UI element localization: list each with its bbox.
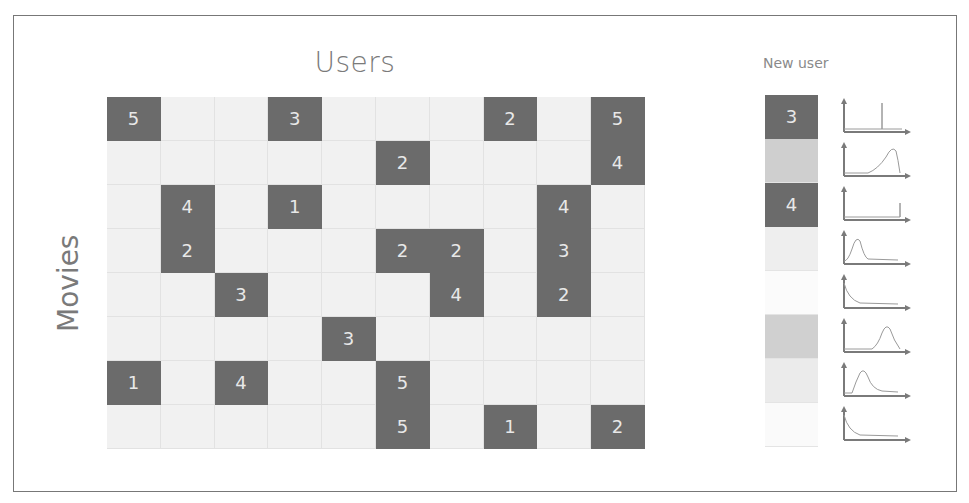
matrix-cell: 4	[215, 361, 269, 405]
matrix-cell	[430, 361, 484, 405]
users-axis-title: Users	[290, 46, 420, 79]
matrix-cell	[376, 185, 430, 229]
matrix-cell	[268, 229, 322, 273]
matrix-cell	[484, 141, 538, 185]
matrix-cell	[215, 185, 269, 229]
new-user-cell	[765, 139, 818, 183]
new-user-cell	[765, 227, 818, 271]
matrix-cell	[376, 317, 430, 361]
matrix-cell	[268, 361, 322, 405]
matrix-cell	[268, 317, 322, 361]
matrix-cell: 1	[107, 361, 161, 405]
matrix-cell: 4	[430, 273, 484, 317]
matrix-cell	[107, 405, 161, 449]
movies-axis-title: Movies	[52, 235, 85, 332]
matrix-cell: 3	[322, 317, 376, 361]
matrix-cell	[215, 405, 269, 449]
matrix-cell: 5	[591, 97, 645, 141]
matrix-cell: 4	[537, 185, 591, 229]
matrix-cell	[107, 141, 161, 185]
distribution-chart-icon	[838, 183, 918, 227]
matrix-cell: 3	[268, 97, 322, 141]
matrix-cell	[268, 273, 322, 317]
distribution-chart-icon	[838, 271, 918, 315]
matrix-cell: 5	[376, 361, 430, 405]
matrix-cell	[591, 273, 645, 317]
distribution-chart-icon	[838, 95, 918, 139]
matrix-cell	[591, 229, 645, 273]
matrix-cell	[484, 361, 538, 405]
matrix-cell	[268, 405, 322, 449]
matrix-cell	[161, 361, 215, 405]
matrix-cell	[591, 185, 645, 229]
matrix-cell	[537, 405, 591, 449]
new-user-cell	[765, 359, 818, 403]
matrix-cell	[322, 273, 376, 317]
matrix-cell	[484, 273, 538, 317]
matrix-cell: 1	[484, 405, 538, 449]
distribution-chart-icon	[838, 315, 918, 359]
matrix-cell	[215, 317, 269, 361]
matrix-cell	[215, 141, 269, 185]
distribution-chart-icon	[838, 403, 918, 447]
new-user-column: 34	[765, 95, 818, 447]
matrix-cell	[322, 141, 376, 185]
new-user-cell: 4	[765, 183, 818, 227]
matrix-cell	[322, 97, 376, 141]
matrix-cell	[107, 317, 161, 361]
matrix-cell: 1	[268, 185, 322, 229]
matrix-cell	[591, 361, 645, 405]
matrix-cell	[215, 229, 269, 273]
matrix-cell	[322, 361, 376, 405]
matrix-cell	[484, 317, 538, 361]
matrix-cell	[430, 317, 484, 361]
matrix-cell	[161, 141, 215, 185]
matrix-cell	[484, 185, 538, 229]
matrix-cell	[591, 317, 645, 361]
matrix-cell	[430, 185, 484, 229]
matrix-cell: 2	[376, 229, 430, 273]
matrix-cell	[107, 229, 161, 273]
matrix-cell: 2	[484, 97, 538, 141]
new-user-cell	[765, 271, 818, 315]
matrix-cell	[322, 229, 376, 273]
matrix-cell	[376, 97, 430, 141]
matrix-cell: 2	[430, 229, 484, 273]
matrix-cell	[430, 141, 484, 185]
new-user-cell	[765, 403, 818, 447]
matrix-cell	[161, 97, 215, 141]
matrix-cell	[322, 405, 376, 449]
matrix-cell: 2	[591, 405, 645, 449]
matrix-cell	[484, 229, 538, 273]
new-user-cell: 3	[765, 95, 818, 139]
distribution-chart-icon	[838, 359, 918, 403]
matrix-cell	[430, 405, 484, 449]
matrix-cell: 3	[537, 229, 591, 273]
matrix-cell: 5	[376, 405, 430, 449]
matrix-cell	[537, 141, 591, 185]
matrix-cell	[322, 185, 376, 229]
matrix-cell: 2	[376, 141, 430, 185]
matrix-cell	[537, 361, 591, 405]
matrix-cell	[161, 317, 215, 361]
matrix-cell: 2	[161, 229, 215, 273]
new-user-title: New user	[763, 55, 829, 71]
matrix-cell	[537, 317, 591, 361]
matrix-cell: 4	[591, 141, 645, 185]
distribution-charts	[838, 95, 918, 447]
matrix-cell: 3	[215, 273, 269, 317]
matrix-cell	[376, 273, 430, 317]
matrix-cell: 2	[537, 273, 591, 317]
rating-matrix: 53252441422233423145512	[107, 97, 645, 449]
new-user-cell	[765, 315, 818, 359]
matrix-cell	[161, 273, 215, 317]
matrix-cell	[107, 185, 161, 229]
matrix-cell	[161, 405, 215, 449]
matrix-cell	[268, 141, 322, 185]
matrix-cell	[107, 273, 161, 317]
matrix-cell: 5	[107, 97, 161, 141]
distribution-chart-icon	[838, 227, 918, 271]
matrix-cell: 4	[161, 185, 215, 229]
matrix-cell	[215, 97, 269, 141]
distribution-chart-icon	[838, 139, 918, 183]
